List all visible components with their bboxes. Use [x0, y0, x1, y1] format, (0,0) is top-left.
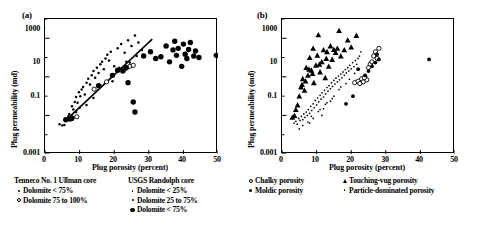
panel-b: (b) Plug permeability (md) 1000 10 0.1 0… — [241, 0, 482, 172]
data-point — [99, 63, 102, 66]
legend-item[interactable]: Dolomite < 25% — [128, 186, 198, 196]
data-point — [307, 55, 313, 60]
data-point — [307, 121, 309, 123]
panel-b-ytick-0.001: 0.001 — [241, 148, 277, 157]
data-point — [356, 67, 360, 71]
data-point — [196, 55, 201, 60]
data-point — [342, 71, 344, 73]
data-point — [319, 109, 321, 111]
panel-a-label: (a) — [22, 10, 32, 20]
data-point — [92, 97, 95, 100]
legend-usgs-randolph: USGS Randolph core Dolomite < 25%Dolomit… — [128, 176, 198, 215]
data-point — [352, 62, 354, 64]
data-point — [353, 66, 355, 68]
data-point — [354, 73, 356, 75]
legend-item[interactable]: Dolomite < 75% — [14, 186, 96, 196]
data-point — [321, 115, 323, 117]
data-point — [96, 66, 99, 69]
legend-porosity-type-right: Touching-vug porosityParticle-dominated … — [340, 176, 434, 195]
data-point — [89, 83, 92, 86]
data-point — [325, 93, 327, 95]
data-point — [296, 93, 302, 98]
data-point — [85, 104, 88, 107]
data-point — [326, 102, 328, 104]
data-point — [320, 98, 322, 100]
legend-item-label: Dolomite < 25% — [137, 186, 187, 195]
panel-a-x-axis-label: Plug porosity (percent) — [70, 163, 190, 172]
data-point — [295, 102, 301, 107]
data-point — [120, 43, 123, 46]
legend-item[interactable]: Particle-dominated porosity — [340, 186, 434, 196]
data-point — [148, 49, 153, 54]
open-circle-icon — [246, 179, 255, 183]
data-point — [174, 53, 179, 58]
data-point — [124, 65, 129, 70]
data-point — [123, 51, 126, 54]
data-point — [316, 104, 318, 106]
data-point — [344, 69, 346, 71]
data-point — [131, 99, 136, 104]
data-point — [304, 116, 306, 118]
data-point — [331, 82, 333, 84]
data-point — [309, 122, 311, 124]
panel-a-ytick-0.001: 0.001 — [4, 148, 40, 157]
data-point — [356, 63, 358, 65]
data-point — [377, 58, 381, 62]
data-point — [90, 74, 93, 77]
data-point — [127, 39, 130, 42]
data-point — [293, 107, 299, 112]
legend-item[interactable]: Chalky porosity — [246, 176, 304, 186]
panel-b-scatter-canvas — [282, 19, 455, 154]
data-point — [176, 46, 181, 51]
data-point — [328, 85, 330, 87]
dot-large-icon — [128, 208, 137, 213]
data-point — [331, 98, 333, 100]
data-point — [374, 61, 378, 65]
legend-porosity-type-left: Chalky porosityMoldic porosity — [246, 176, 304, 195]
data-point — [349, 78, 351, 80]
data-point — [106, 54, 109, 57]
data-point — [103, 68, 106, 71]
data-point — [332, 86, 334, 88]
legend-item[interactable]: Moldic porosity — [246, 186, 304, 196]
data-point — [179, 64, 184, 69]
data-point — [348, 44, 354, 49]
data-point — [299, 120, 301, 122]
data-point — [110, 73, 115, 78]
legend-item-label: Dolomite 75 to 100% — [23, 196, 87, 205]
data-point — [134, 34, 137, 37]
legend-item[interactable]: Touching-vug porosity — [340, 176, 434, 186]
data-point — [111, 80, 114, 83]
panel-b-ytick-1000: 1000 — [245, 24, 277, 33]
data-point — [318, 101, 320, 103]
data-point — [129, 61, 132, 64]
data-point — [125, 61, 128, 64]
panel-a-scatter-canvas — [45, 19, 218, 154]
panel-b-plot-area — [281, 18, 454, 153]
data-point — [427, 58, 431, 62]
data-point — [311, 110, 313, 112]
data-point — [79, 95, 82, 98]
legend-item-label: Touching-vug porosity — [349, 176, 418, 185]
data-point — [188, 40, 193, 45]
data-point — [343, 74, 345, 76]
data-point — [338, 75, 340, 77]
panel-b-x-axis-label: Plug porosity (percent) — [307, 163, 427, 172]
legend-usgs-title: USGS Randolph core — [128, 176, 198, 185]
data-point — [68, 113, 71, 116]
data-point — [314, 100, 316, 102]
data-point — [97, 72, 100, 75]
data-point — [326, 63, 332, 68]
data-point — [341, 77, 343, 79]
legend-item[interactable]: Dolomite 75 to 100% — [14, 196, 96, 206]
legend-tenneco-title: Tenneco No. 1 Ullman core — [14, 176, 96, 185]
data-point — [323, 96, 325, 98]
legend-item[interactable]: Dolomite < 75% — [128, 205, 198, 215]
data-point — [75, 115, 79, 119]
legend-tenneco-ullman: Tenneco No. 1 Ullman core Dolomite < 75%… — [14, 176, 96, 205]
data-point — [104, 57, 107, 60]
data-point — [92, 70, 95, 73]
data-point — [63, 124, 66, 127]
data-point — [314, 52, 320, 57]
legend-item[interactable]: Dolomite 25 to 75% — [128, 196, 198, 206]
